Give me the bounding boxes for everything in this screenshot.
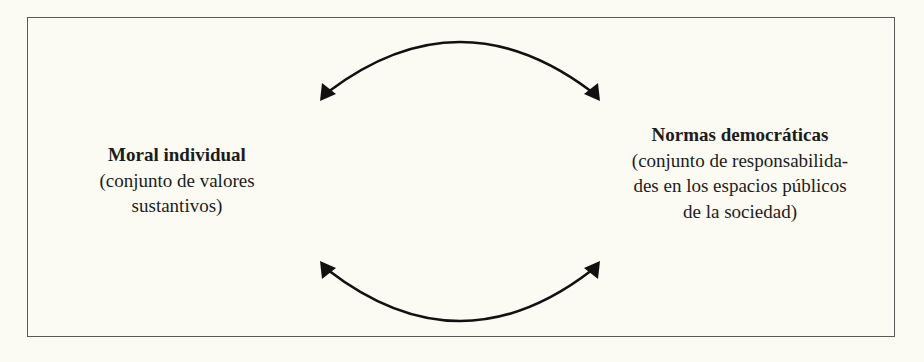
- node-description-line: sustantivos): [57, 193, 297, 219]
- node-moral-individual: Moral individual (conjunto de valores su…: [57, 142, 297, 219]
- node-normas-democraticas: Normas democráticas (conjunto de respons…: [590, 122, 890, 224]
- node-title: Normas democráticas: [590, 122, 890, 148]
- node-title: Moral individual: [57, 142, 297, 168]
- node-description-line: (conjunto de responsabilida-: [590, 148, 890, 174]
- node-description-line: de la sociedad): [590, 199, 890, 225]
- diagram-canvas: Moral individual (conjunto de valores su…: [0, 0, 924, 362]
- node-description-line: des en los espacios públicos: [590, 173, 890, 199]
- node-description-line: (conjunto de valores: [57, 168, 297, 194]
